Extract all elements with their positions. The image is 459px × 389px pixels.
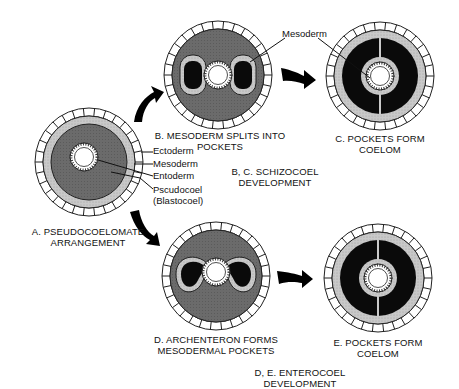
caption-d: D. ARCHENTERON FORMS MESODERMAL POCKETS <box>146 334 286 356</box>
caption-a: A. PSEUDOCOELOMATE ARRANGEMENT <box>18 226 158 248</box>
label-mesoderm: Mesoderm <box>153 158 198 169</box>
arrow-b-to-c <box>281 68 316 89</box>
caption-bc-line2: DEVELOPMENT <box>215 177 335 188</box>
arrow-a-to-b <box>134 86 164 122</box>
caption-de-line1: D, E. ENTEROCOEL <box>240 367 360 378</box>
caption-b-line2: POCKETS <box>150 141 290 152</box>
caption-b: B. MESODERM SPLITS INTO POCKETS <box>150 130 290 152</box>
caption-de-line2: DEVELOPMENT <box>240 378 360 389</box>
circle-a-pseudocoelomate <box>35 108 143 216</box>
circle-c-pockets-form-coelom <box>326 22 434 130</box>
circle-d-archenteron <box>162 222 270 330</box>
caption-e-line2: COELOM <box>318 348 438 359</box>
caption-c-line2: COELOM <box>320 144 440 155</box>
arrow-d-to-e <box>277 270 313 288</box>
caption-e-line1: E. POCKETS FORM <box>318 337 438 348</box>
coelom-pocket-right <box>234 61 252 89</box>
caption-b-line1: B. MESODERM SPLITS INTO <box>150 130 290 141</box>
caption-d-line2: MESODERMAL POCKETS <box>146 345 286 356</box>
caption-bc-line1: B, C. SCHIZOCOEL <box>215 166 335 177</box>
coelom-pocket-left <box>184 61 202 89</box>
caption-group-bc: B, C. SCHIZOCOEL DEVELOPMENT <box>215 166 335 188</box>
circle-b-mesoderm-splits <box>164 21 272 129</box>
label-blastocoel: (Blastocoel) <box>153 195 203 206</box>
label-mesoderm-c: Mesoderm <box>282 28 327 39</box>
label-pseudocoel: Pscudocoel <box>153 184 202 195</box>
caption-a-line1: A. PSEUDOCOELOMATE <box>18 226 158 237</box>
caption-d-line1: D. ARCHENTERON FORMS <box>146 334 286 345</box>
caption-c: C. POCKETS FORM COELOM <box>320 133 440 155</box>
caption-c-line1: C. POCKETS FORM <box>320 133 440 144</box>
caption-a-line2: ARRANGEMENT <box>18 237 158 248</box>
coelom-development-diagram <box>0 0 459 389</box>
label-entoderm: Entoderm <box>153 170 194 181</box>
caption-e: E. POCKETS FORM COELOM <box>318 337 438 359</box>
circle-e-pockets-form-coelom <box>324 224 432 332</box>
caption-group-de: D, E. ENTEROCOEL DEVELOPMENT <box>240 367 360 389</box>
